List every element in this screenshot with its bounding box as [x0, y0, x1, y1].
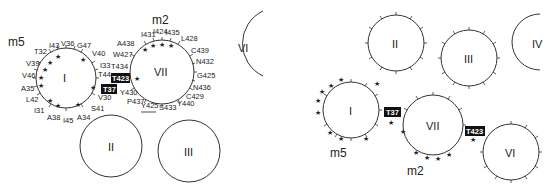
svg-text:★: ★ — [413, 149, 419, 157]
svg-text:I435: I435 — [165, 28, 180, 37]
svg-text:V30: V30 — [98, 93, 111, 102]
helix-I-stars-right: ★★ ★★ ★★ ★★ ★★ — [315, 76, 394, 143]
svg-text:★: ★ — [363, 135, 369, 143]
svg-text:V39: V39 — [26, 59, 39, 68]
svg-text:★: ★ — [159, 41, 165, 49]
svg-text:T434: T434 — [111, 62, 128, 71]
helix-I-label: I — [63, 72, 66, 84]
svg-text:★: ★ — [168, 42, 174, 50]
svg-text:T37: T37 — [103, 85, 116, 94]
svg-text:★: ★ — [142, 46, 148, 54]
helix-VI-label-right: VI — [505, 147, 515, 159]
svg-text:G425: G425 — [197, 71, 215, 80]
left-panel: I ★ ★ ★ ★ ★ ★ — [8, 11, 263, 182]
svg-text:★: ★ — [327, 129, 333, 137]
helix-VI-label: VI — [238, 42, 248, 54]
helix-III-label: III — [184, 146, 193, 158]
svg-text:T423: T423 — [466, 127, 483, 136]
svg-text:★: ★ — [80, 56, 86, 64]
svg-text:★: ★ — [400, 128, 406, 136]
svg-text:N432: N432 — [196, 57, 214, 66]
boxed-T423-left: T423 — [111, 73, 130, 83]
helix-II-label-right: II — [392, 38, 398, 50]
helix-III-label-right: III — [464, 53, 473, 65]
svg-text:A438: A438 — [117, 39, 135, 48]
svg-text:★: ★ — [424, 154, 430, 162]
svg-text:★: ★ — [134, 75, 140, 83]
helix-I-label-right: I — [349, 105, 352, 117]
m5-label-right: m5 — [330, 146, 347, 160]
helix-IV-label-right: IV — [532, 38, 543, 50]
svg-text:I31: I31 — [34, 106, 44, 115]
svg-text:T423: T423 — [112, 74, 129, 83]
boxed-T423-right: T423 — [465, 126, 485, 136]
right-panel: II III IV I — [315, 12, 543, 183]
svg-text:Y430: Y430 — [120, 88, 138, 97]
svg-text:★: ★ — [55, 102, 61, 110]
svg-text:N436: N436 — [193, 83, 211, 92]
svg-text:V46: V46 — [22, 71, 35, 80]
svg-text:I33: I33 — [100, 61, 110, 70]
svg-text:★: ★ — [470, 136, 476, 144]
svg-text:★: ★ — [38, 82, 44, 90]
svg-text:C439: C439 — [191, 46, 209, 55]
svg-text:★: ★ — [338, 76, 344, 84]
svg-text:★: ★ — [75, 101, 81, 109]
svg-text:T37: T37 — [386, 108, 399, 117]
svg-text:Y440: Y440 — [177, 99, 195, 108]
svg-text:★: ★ — [38, 74, 44, 82]
svg-text:★: ★ — [90, 84, 96, 92]
helix-VII-label-right: VII — [426, 120, 439, 132]
svg-text:V36: V36 — [61, 39, 74, 48]
boxed-T37-left: T37 — [101, 84, 117, 94]
svg-text:★: ★ — [319, 88, 325, 96]
svg-text:★: ★ — [328, 82, 334, 90]
svg-text:★: ★ — [47, 97, 53, 105]
helix-I-stars: ★ ★ ★ ★ ★ ★ ★ ★ ★ ★ — [38, 53, 96, 110]
boxed-T37-right: T37 — [384, 107, 401, 117]
svg-text:G47: G47 — [77, 41, 91, 50]
svg-text:★: ★ — [446, 151, 452, 159]
helix-II-label: II — [108, 141, 114, 153]
svg-text:★: ★ — [338, 135, 344, 143]
svg-text:S433: S433 — [159, 103, 177, 112]
svg-text:A38: A38 — [47, 113, 60, 122]
svg-text:★: ★ — [315, 97, 321, 105]
svg-text:W427: W427 — [113, 50, 133, 59]
helix-VII-label: VII — [154, 66, 167, 78]
svg-text:★: ★ — [55, 53, 61, 61]
svg-text:T32: T32 — [34, 47, 47, 56]
svg-text:★: ★ — [42, 66, 48, 74]
helix-wheel-diagram: I ★ ★ ★ ★ ★ ★ — [0, 0, 552, 191]
m2-label: m2 — [152, 13, 169, 27]
svg-text:T44: T44 — [98, 70, 111, 79]
svg-text:L428: L428 — [181, 34, 198, 43]
helix-I-residues: T32 I43 V36 G47 V40 I33 T44 V30 S41 A34 … — [21, 39, 111, 125]
svg-text:A34: A34 — [77, 113, 90, 122]
svg-text:I45: I45 — [63, 116, 73, 125]
svg-text:★: ★ — [388, 119, 394, 127]
svg-text:P437: P437 — [127, 97, 145, 106]
svg-text:I43: I43 — [49, 41, 59, 50]
svg-text:V40: V40 — [92, 49, 105, 58]
svg-text:★: ★ — [315, 109, 321, 117]
m5-label: m5 — [8, 35, 25, 49]
m2-label-right: m2 — [407, 164, 424, 178]
svg-text:L42: L42 — [26, 95, 39, 104]
svg-text:★: ★ — [374, 80, 380, 88]
svg-text:★: ★ — [435, 155, 441, 163]
svg-text:S41: S41 — [91, 104, 104, 113]
svg-text:A35: A35 — [21, 84, 34, 93]
svg-text:★: ★ — [150, 42, 156, 50]
